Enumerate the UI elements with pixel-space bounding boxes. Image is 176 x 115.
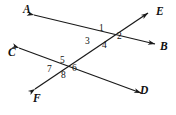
angle-label-4: 4 [102, 41, 107, 51]
line-cd [19, 48, 141, 93]
geometry-canvas [0, 0, 176, 115]
point-label-b: B [160, 41, 168, 53]
angle-label-5: 5 [60, 56, 65, 66]
line-fe [35, 13, 148, 89]
angle-label-2: 2 [117, 32, 122, 42]
point-label-a: A [23, 4, 31, 16]
point-label-e: E [156, 6, 164, 18]
point-label-f: F [33, 93, 41, 105]
point-label-c: C [8, 47, 16, 59]
angle-label-7: 7 [47, 65, 52, 75]
angle-label-1: 1 [99, 24, 104, 34]
angle-label-6: 6 [72, 64, 77, 74]
point-label-d: D [140, 85, 148, 97]
geometry-diagram: A E B C F D 1 2 3 4 5 6 7 8 [0, 0, 176, 115]
line-ab [34, 15, 155, 44]
angle-label-3: 3 [85, 37, 90, 47]
angle-label-8: 8 [61, 71, 66, 81]
